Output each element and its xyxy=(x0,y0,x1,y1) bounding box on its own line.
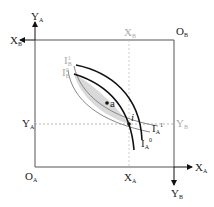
label-ya-tick: YA xyxy=(22,117,35,130)
label-ib0: I0B xyxy=(62,66,70,79)
label-point-i: i xyxy=(131,111,134,123)
label-yb-tick: YB xyxy=(176,117,188,130)
label-ia0: IA0 xyxy=(141,137,152,150)
label-yb-axis: YB xyxy=(171,187,183,200)
label-ya-axis: YA xyxy=(31,10,44,23)
label-xb-tick: XB xyxy=(124,26,136,39)
label-oa: OA xyxy=(25,170,38,183)
point-a xyxy=(105,101,109,105)
label-xa-axis: XA xyxy=(195,161,208,174)
edgeworth-box-diagram: YA XB OB OA XA YB YA XA XB YB i a I1B I0… xyxy=(0,0,214,207)
label-xb-axis: XB xyxy=(10,34,22,47)
label-ia1: IA1 xyxy=(152,122,163,135)
label-point-a: a xyxy=(110,97,115,109)
label-xa-tick: XA xyxy=(124,171,137,184)
mutual-gain-lens xyxy=(74,74,129,124)
label-ob: OB xyxy=(176,25,188,38)
